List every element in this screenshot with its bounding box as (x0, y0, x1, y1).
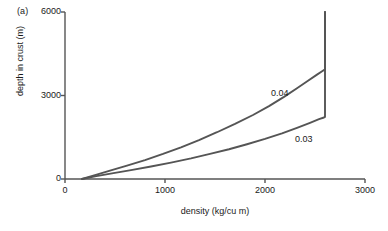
x-tick-label: 0 (40, 185, 90, 195)
chart-figure: (a) 030006000 0100020003000 0.040.03 dep… (0, 0, 388, 231)
x-axis-title: density (kg/cu m) (65, 206, 365, 216)
series-line-0.04 (82, 12, 325, 179)
curve-label-0.03: 0.03 (295, 134, 313, 144)
tick-marks (61, 12, 365, 183)
y-axis-title: depth in crust (m) (15, 1, 25, 121)
x-tick-label: 3000 (340, 185, 388, 195)
x-tick-label: 2000 (240, 185, 290, 195)
plot-area (0, 0, 388, 231)
curve-label-0.04: 0.04 (271, 88, 289, 98)
y-tick-label: 0 (17, 173, 61, 183)
data-curves (82, 12, 325, 179)
x-tick-label: 1000 (140, 185, 190, 195)
series-line-0.03 (82, 12, 325, 179)
